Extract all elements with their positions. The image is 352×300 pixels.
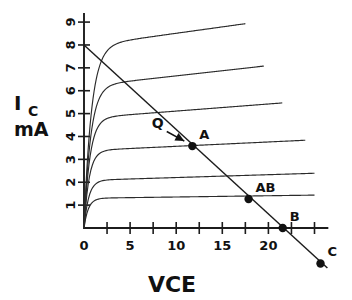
y-axis-title-subscript: C bbox=[28, 103, 38, 119]
point-label-AB: AB bbox=[256, 180, 276, 195]
operating-point-C bbox=[316, 259, 324, 267]
curve-IB5 bbox=[84, 66, 264, 228]
x-tick-label-10: 10 bbox=[167, 238, 185, 253]
point-label-A: A bbox=[199, 127, 209, 142]
y-tick-label-2: 2 bbox=[63, 178, 78, 187]
x-tick-label-0: 0 bbox=[79, 238, 88, 253]
x-tick-label-5: 5 bbox=[126, 238, 135, 253]
x-tick-label-15: 15 bbox=[213, 238, 231, 253]
curve-IB4 bbox=[84, 103, 282, 228]
y-tick-label-7: 7 bbox=[63, 63, 78, 72]
point-label-C: C bbox=[327, 244, 337, 259]
plot-area: AABBC 05101520 123456789 Q bbox=[63, 13, 338, 268]
annotation-label-Q: Q bbox=[152, 115, 164, 131]
load-line-group bbox=[84, 45, 327, 268]
annotations-group: Q bbox=[152, 115, 185, 141]
y-tick-label-9: 9 bbox=[63, 18, 78, 27]
operating-point-B bbox=[278, 224, 286, 232]
x-tick-labels: 05101520 bbox=[79, 238, 277, 253]
y-tick-labels: 123456789 bbox=[63, 18, 78, 210]
y-tick-label-5: 5 bbox=[63, 109, 78, 118]
operating-point-A bbox=[188, 142, 196, 150]
x-tick-label-20: 20 bbox=[259, 238, 277, 253]
x-axis-title-label: VCE bbox=[148, 272, 196, 297]
y-axis-title: I C mA bbox=[14, 91, 49, 140]
y-tick-label-3: 3 bbox=[63, 155, 78, 164]
y-tick-label-6: 6 bbox=[63, 86, 78, 95]
curve-IB2 bbox=[84, 173, 315, 228]
y-axis-title-symbol: I bbox=[14, 91, 21, 115]
y-axis-units-label: mA bbox=[14, 118, 49, 140]
dc-load-line bbox=[84, 45, 327, 268]
y-tick-label-8: 8 bbox=[63, 40, 78, 49]
curves-group bbox=[84, 24, 315, 228]
operating-point-AB bbox=[244, 195, 252, 203]
x-axis-title: VCE bbox=[148, 272, 196, 297]
characteristic-curves-chart: AABBC 05101520 123456789 Q I C mA VCE bbox=[0, 0, 352, 300]
point-label-B: B bbox=[290, 209, 300, 224]
y-tick-label-1: 1 bbox=[63, 201, 78, 210]
y-tick-label-4: 4 bbox=[63, 132, 78, 141]
